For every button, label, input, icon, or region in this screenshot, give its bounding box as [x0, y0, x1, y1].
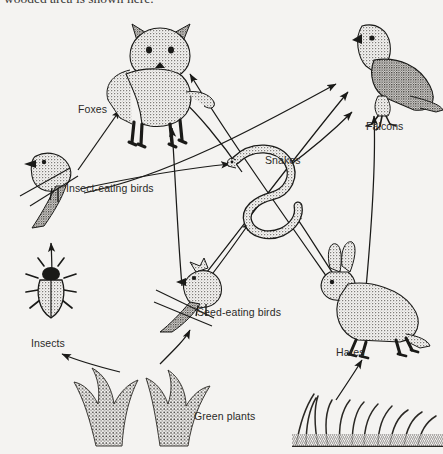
arrow-layer: [51, 74, 375, 400]
food-web-figure: wooded area is shown here.: [0, 0, 443, 454]
hare-illustration: [321, 242, 430, 358]
fox-illustration: [107, 24, 214, 147]
arrow-seed-birds-to-falcons: [196, 92, 348, 286]
arrow-hares-to-falcons: [366, 116, 375, 288]
arrow-insect-birds-to-foxes: [78, 110, 120, 170]
falcon-illustration: [352, 25, 443, 130]
seed-eating-bird-illustration: [154, 258, 221, 332]
green-plants-grass-illustration: [292, 394, 443, 446]
food-web-diagram: [0, 0, 443, 454]
label-foxes: Foxes: [78, 103, 107, 115]
label-falcons: Falcons: [366, 120, 403, 132]
green-plants-shrubs-illustration: [74, 368, 210, 446]
beetle-illustration: [26, 258, 76, 318]
label-insect-eating-birds: Insect-eating birds: [66, 182, 154, 194]
label-snakes: Snakes: [265, 154, 301, 166]
label-green-plants: Green plants: [194, 410, 255, 422]
arrow-green-plants-to-hares: [336, 360, 362, 400]
arrow-green-plants-to-insects: [62, 354, 120, 372]
label-hares: Hares: [336, 346, 365, 358]
label-insects: Insects: [31, 337, 65, 349]
arrow-green-plants-to-seed-birds: [160, 330, 190, 364]
label-seed-eating-birds: Seed-eating birds: [197, 306, 281, 318]
arrow-seed-birds-to-foxes: [172, 128, 182, 286]
